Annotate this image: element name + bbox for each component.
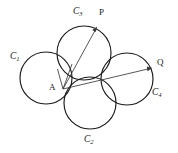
label-c4: C4 <box>152 88 162 98</box>
circle-c2 <box>64 77 116 129</box>
vector-a-to-p <box>63 30 95 89</box>
construction-segment-2 <box>58 69 64 89</box>
label-point-q: Q <box>157 58 164 67</box>
figure-canvas <box>0 0 178 153</box>
label-c1: C1 <box>10 52 20 62</box>
circle-c4 <box>101 53 153 105</box>
circle-c1 <box>20 52 72 104</box>
label-point-a: A <box>49 83 56 92</box>
label-c2: C2 <box>84 135 94 145</box>
label-c3: C3 <box>73 7 83 17</box>
geometry-figure: C1 C3 C2 C4 P Q A <box>0 0 178 153</box>
label-point-p: P <box>99 8 104 17</box>
circle-c3 <box>57 26 111 80</box>
